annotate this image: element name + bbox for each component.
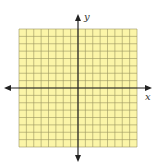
y-axis-bottom-arrow-icon (75, 155, 81, 162)
x-axis-label: x (145, 91, 151, 102)
coordinate-plane (0, 0, 156, 166)
x-axis-left-arrow-icon (4, 85, 11, 91)
y-axis-label: y (84, 11, 90, 22)
y-axis-top-arrow-icon (75, 14, 81, 21)
